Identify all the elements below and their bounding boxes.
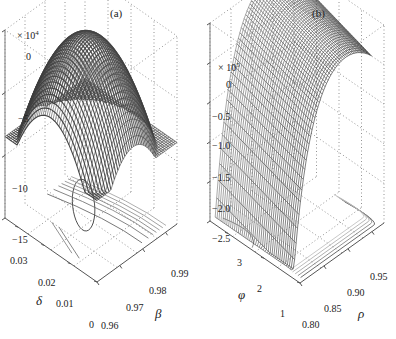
x-tick-label: 0.99 [171, 269, 189, 279]
y-tick-label: 0.02 [38, 278, 56, 288]
z-tick-label: −2.0 [212, 204, 230, 214]
x-tick-label: 0.80 [302, 320, 320, 330]
surface-plot-b [198, 0, 396, 339]
y-axis-label-b: φ [238, 288, 245, 301]
y-axis-label-a: δ [36, 294, 42, 307]
z-tick-label: −0.5 [212, 112, 230, 122]
z-tick-label: −1.0 [212, 141, 230, 151]
z-multiplier-b: × 105 [218, 62, 240, 73]
z-tick-label: 0 [226, 80, 231, 90]
y-tick-label: 2 [257, 284, 262, 294]
panel-label-a: (a) [110, 7, 122, 19]
y-tick-label: 0 [89, 320, 94, 330]
panel-label-b: (b) [312, 7, 325, 19]
z-tick-label: −10 [12, 184, 28, 194]
z-tick-label: −15 [12, 235, 28, 245]
y-tick-label: 1 [280, 309, 285, 319]
x-tick-label: 0.95 [370, 272, 388, 282]
chart-panel-b: (b) × 105 0 −0.5 −1.0 −1.5 −2.0 −2.5 3 2… [198, 0, 396, 339]
x-tick-label: 0.98 [149, 286, 167, 296]
z-tick-label: −2.5 [212, 234, 230, 244]
x-axis-label-a: β [155, 307, 161, 320]
chart-panel-a: (a) × 104 0 −5 −10 −15 0.03 0.02 0.01 0 … [0, 0, 198, 339]
z-tick-label: 0 [26, 52, 31, 62]
z-tick-label: −1.5 [212, 173, 230, 183]
x-tick-label: 0.90 [347, 288, 365, 298]
z-tick-label: −5 [18, 114, 29, 124]
z-multiplier-a: × 104 [17, 30, 39, 41]
x-axis-label-b: ρ [358, 307, 364, 320]
y-tick-label: 0.03 [10, 256, 28, 266]
x-tick-label: 0.96 [101, 321, 119, 331]
x-tick-label: 0.85 [324, 304, 342, 314]
x-tick-label: 0.97 [126, 303, 144, 313]
y-tick-label: 0.01 [56, 299, 74, 309]
y-tick-label: 3 [237, 258, 242, 268]
